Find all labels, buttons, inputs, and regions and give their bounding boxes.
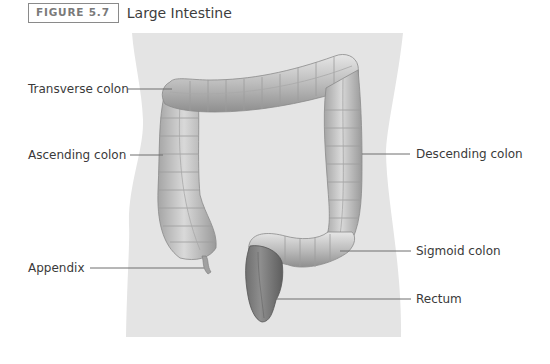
label-appendix: Appendix [28, 261, 84, 275]
label-rectum: Rectum [416, 292, 462, 306]
descending-colon [324, 70, 362, 240]
label-sigmoid-colon: Sigmoid colon [416, 244, 501, 258]
label-transverse-colon: Transverse colon [28, 82, 129, 96]
label-descending-colon: Descending colon [416, 147, 523, 161]
label-ascending-colon: Ascending colon [28, 148, 126, 162]
large-intestine-illustration [0, 0, 550, 364]
